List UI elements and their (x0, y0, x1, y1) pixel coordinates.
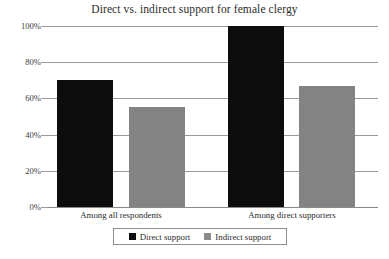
legend-item-direct-support[interactable]: Direct support (129, 232, 191, 242)
gridline-80 (48, 62, 378, 63)
y-tick-stub-0 (41, 207, 48, 208)
gridline-100 (48, 26, 378, 27)
chart-title: Direct vs. indirect support for female c… (0, 3, 389, 15)
y-tick-label-100: 100% (1, 21, 41, 31)
y-tick-stub-20 (41, 171, 48, 172)
bar-direct-among-all-respondents (57, 80, 113, 207)
y-tick-stub-80 (41, 62, 48, 63)
y-tick-label-40: 40% (1, 130, 41, 140)
y-tick-stub-60 (41, 98, 48, 99)
y-tick-stub-100 (41, 26, 48, 27)
bar-indirect-among-direct-supporters (299, 86, 355, 207)
y-tick-stub-40 (41, 135, 48, 136)
x-category-label-among-direct-supporters: Among direct supporters (212, 210, 372, 220)
y-tick-label-80: 80% (1, 57, 41, 67)
legend-item-indirect-support[interactable]: Indirect support (204, 232, 271, 242)
bar-direct-among-direct-supporters (228, 26, 284, 207)
legend-label-indirect-support: Indirect support (215, 232, 271, 242)
gray-square-swatch-icon (204, 233, 211, 240)
bar-chart: Direct vs. indirect support for female c… (0, 0, 389, 259)
legend-label-direct-support: Direct support (140, 232, 191, 242)
y-tick-label-60: 60% (1, 93, 41, 103)
x-category-label-among-all-respondents: Among all respondents (41, 210, 201, 220)
plot-area (48, 26, 378, 207)
chart-legend: Direct support Indirect support (113, 228, 287, 245)
y-tick-label-20: 20% (1, 166, 41, 176)
bar-indirect-among-all-respondents (129, 107, 185, 207)
y-tick-label-0: 0% (1, 202, 41, 212)
gridline-0 (48, 207, 378, 208)
black-square-swatch-icon (129, 233, 136, 240)
